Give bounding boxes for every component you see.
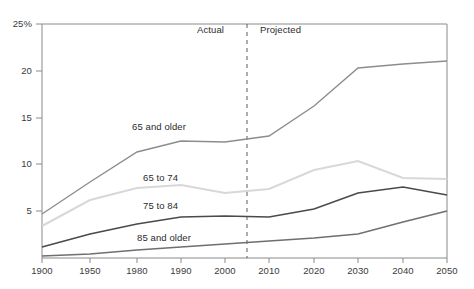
series-label-65-and-older: 65 and older [132,121,186,132]
chart-container: 25% 20 15 10 5 1900 1950 1980 1990 2000 … [0,0,474,289]
annotation-projected: Projected [260,24,301,35]
annotation-actual: Actual [197,24,224,35]
series-label-75-to-84: 75 to 84 [143,200,178,211]
x-tick-label-1950: 1950 [70,265,110,276]
x-tick-label-2040: 2040 [383,265,423,276]
x-tick-label-1900: 1900 [22,265,62,276]
x-tick-label-2020: 2020 [294,265,334,276]
y-tick-marks [36,24,42,211]
chart-canvas [0,0,474,289]
series-label-65-to-74: 65 to 74 [143,172,178,183]
x-tick-label-2050: 2050 [427,265,467,276]
series-label-85-and-older: 85 and older [137,232,191,243]
x-tick-label-2030: 2030 [338,265,378,276]
x-tick-label-2010: 2010 [249,265,289,276]
y-tick-label-25: 25% [0,18,32,29]
x-tick-label-1990: 1990 [161,265,201,276]
x-tick-label-1980: 1980 [117,265,157,276]
x-tick-label-2000: 2000 [205,265,245,276]
y-tick-label-15: 15 [0,112,32,123]
series-line-85-and-older [42,211,447,256]
y-tick-label-5: 5 [0,205,32,216]
y-tick-label-20: 20 [0,65,32,76]
x-tick-marks [42,258,447,263]
y-tick-label-10: 10 [0,158,32,169]
